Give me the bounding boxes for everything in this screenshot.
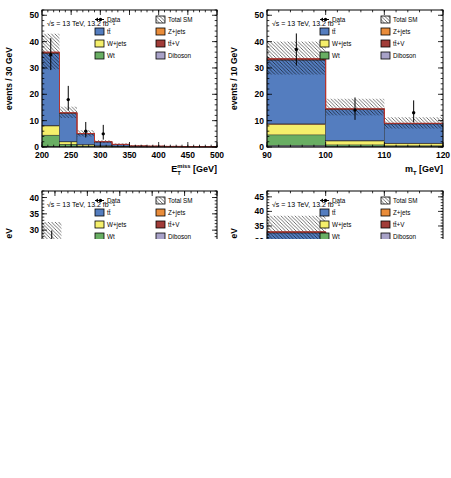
stack-wt bbox=[60, 144, 78, 146]
x-tick-label: 120 bbox=[436, 150, 450, 160]
legend-label: Z+jets bbox=[168, 209, 185, 217]
x-tick-label: 250 bbox=[64, 150, 78, 160]
stack-wt bbox=[42, 135, 60, 146]
legend-label: Wt bbox=[332, 52, 340, 59]
legend-swatch-ttbar bbox=[95, 28, 104, 35]
lumi-label: √s = 13 TeV, 13.2 fb⁻¹ bbox=[272, 20, 341, 27]
legend-label: Data bbox=[107, 16, 121, 23]
legend-label: Diboson bbox=[393, 233, 417, 239]
legend-swatch-zjets bbox=[381, 209, 390, 216]
panel-top-right: 9010011012001020304050events / 10 GeVmT … bbox=[225, 0, 451, 181]
main-plot-area: 2503003504004505000510152025303540events… bbox=[4, 191, 224, 239]
legend-label: Z+jets bbox=[393, 28, 410, 36]
legend-swatch-diboson bbox=[381, 52, 390, 59]
x-tick-label: 300 bbox=[93, 150, 107, 160]
legend-swatch-wjets bbox=[320, 40, 329, 47]
legend-label: Total SM bbox=[393, 16, 418, 23]
lumi-label: √s = 13 TeV, 13.2 fb⁻¹ bbox=[272, 201, 341, 208]
legend-swatch-zjets bbox=[156, 28, 165, 35]
legend-swatch-ttv bbox=[381, 221, 390, 228]
legend-label: tt̄+V bbox=[168, 221, 180, 228]
main-plot-area: 9010011012001020304050events / 10 GeVmT … bbox=[229, 10, 450, 176]
legend-swatch-ttv bbox=[381, 40, 390, 47]
legend-hatch-swatch bbox=[381, 197, 390, 204]
data-point bbox=[295, 48, 298, 51]
legend-label: Total SM bbox=[393, 197, 418, 204]
y-tick-label: 50 bbox=[255, 10, 265, 20]
legend-label: W+jets bbox=[107, 221, 126, 229]
y-tick-label: 20 bbox=[255, 89, 265, 99]
legend-swatch-wjets bbox=[320, 221, 329, 228]
legend-swatch-wt bbox=[320, 52, 329, 59]
y-tick-label: 10 bbox=[255, 116, 265, 126]
stack-wt bbox=[326, 145, 385, 146]
legend-swatch-ttv bbox=[156, 40, 165, 47]
y-tick-label: 10 bbox=[30, 116, 40, 126]
legend-swatch-diboson bbox=[156, 233, 165, 239]
y-tick-label: 30 bbox=[30, 63, 40, 73]
legend-swatch-ttbar bbox=[320, 28, 329, 35]
main-plot-area: 20025030035040045050001020304050events /… bbox=[4, 10, 224, 176]
data-point bbox=[412, 111, 415, 114]
legend-hatch-swatch bbox=[156, 16, 165, 23]
legend-label: Diboson bbox=[168, 52, 192, 59]
bottom-left-main-plot: 2503003504004505000510152025303540events… bbox=[0, 181, 225, 239]
legend-data-marker bbox=[324, 199, 327, 202]
x-tick-label: 350 bbox=[122, 150, 136, 160]
legend-label: Wt bbox=[107, 233, 115, 239]
stack-wjets bbox=[60, 142, 78, 144]
y-tick-label: 0 bbox=[259, 142, 264, 152]
legend-label: tt̄+V bbox=[393, 221, 405, 228]
main-plot-area: 90100110120051015202530354045events / 10… bbox=[229, 191, 450, 239]
stack-wjets bbox=[384, 143, 443, 145]
stack-wjets bbox=[42, 126, 60, 135]
legend-label: W+jets bbox=[107, 40, 126, 48]
data-point bbox=[102, 132, 105, 135]
bottom-right-main-plot: 90100110120051015202530354045events / 10… bbox=[225, 181, 451, 239]
legend-label: Wt bbox=[332, 233, 340, 239]
y-tick-label: 30 bbox=[255, 236, 265, 239]
legend-swatch-wt bbox=[320, 233, 329, 239]
x-tick-label: 100 bbox=[319, 150, 333, 160]
legend-label: Data bbox=[332, 16, 346, 23]
top-left-main-plot: 20025030035040045050001020304050events /… bbox=[0, 0, 225, 181]
legend-data-marker bbox=[99, 18, 102, 21]
x-axis-title: mT [GeV] bbox=[405, 164, 443, 176]
data-point bbox=[67, 98, 70, 101]
legend-label: Wt bbox=[107, 52, 115, 59]
legend: DataTotal SMtt̄Z+jetsW+jetstt̄+VWtDiboso… bbox=[95, 197, 193, 239]
y-axis-title: events / 10 GeV bbox=[229, 47, 239, 110]
y-tick-label: 45 bbox=[255, 192, 265, 202]
y-tick-label: 50 bbox=[30, 10, 40, 20]
panel-bottom-left: 2503003504004505000510152025303540events… bbox=[0, 181, 225, 239]
stack-wt bbox=[267, 135, 326, 146]
legend-swatch-wjets bbox=[95, 40, 104, 47]
top-right-main-plot: 9010011012001020304050events / 10 GeVmT … bbox=[225, 0, 451, 181]
legend-swatch-zjets bbox=[381, 28, 390, 35]
y-tick-label: 20 bbox=[30, 89, 40, 99]
legend-data-marker bbox=[324, 18, 327, 21]
lumi-label: √s = 13 TeV, 13.2 fb⁻¹ bbox=[47, 20, 116, 27]
legend-swatch-diboson bbox=[156, 52, 165, 59]
legend-swatch-ttbar bbox=[320, 209, 329, 216]
y-tick-label: 40 bbox=[30, 193, 40, 203]
legend-label: tt̄+V bbox=[168, 40, 180, 47]
legend-swatch-ttv bbox=[156, 221, 165, 228]
legend-label: Data bbox=[332, 197, 346, 204]
legend-label: Total SM bbox=[168, 197, 193, 204]
y-axis-title: events / 30 GeV bbox=[4, 228, 14, 239]
y-tick-label: 0 bbox=[34, 142, 39, 152]
panel-top-left: 20025030035040045050001020304050events /… bbox=[0, 0, 225, 181]
y-tick-label: 40 bbox=[255, 206, 265, 216]
legend-swatch-diboson bbox=[381, 233, 390, 239]
legend-label: tt̄ bbox=[107, 28, 111, 35]
legend-data-marker bbox=[99, 199, 102, 202]
legend-label: Z+jets bbox=[168, 28, 185, 36]
y-axis-title: events / 30 GeV bbox=[4, 47, 14, 110]
legend-swatch-wt bbox=[95, 233, 104, 239]
stack-wjets bbox=[267, 125, 326, 135]
legend-swatch-zjets bbox=[156, 209, 165, 216]
x-tick-label: 450 bbox=[181, 150, 195, 160]
legend: DataTotal SMtt̄Z+jetsW+jetstt̄+VWtDiboso… bbox=[95, 16, 193, 59]
data-point bbox=[84, 129, 87, 132]
